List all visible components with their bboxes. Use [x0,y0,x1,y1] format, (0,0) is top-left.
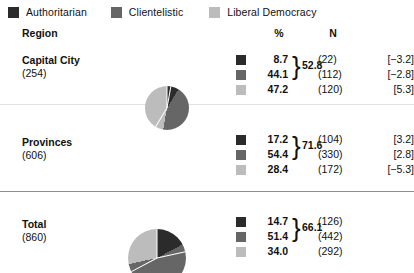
stat-n: (172) [318,163,358,175]
stat-residual: [−2.8] [356,68,414,80]
stat-swatch-authoritarian-icon [236,217,246,227]
row-count: (606) [22,149,72,162]
table-row: Total (860) } 66.1 14.7 (126) 51.4 (442)… [0,198,414,273]
legend-label-clientelistic: Clientelistic [129,6,183,18]
column-headers: Region % N [0,27,414,43]
row-separator-2 [0,191,414,192]
stat-residual: [2.8] [356,148,414,160]
legend-label-authoritarian: Authoritarian [26,6,87,18]
stat-swatch-authoritarian-icon [236,55,246,65]
stat-percent: 14.7 [250,215,288,227]
stat-n: (442) [318,230,358,242]
stat-n: (126) [318,215,358,227]
stat-line: 8.7 (22) [−3.2] [236,52,414,67]
row-count: (254) [22,67,80,80]
stat-residual: [5.3] [356,83,414,95]
stat-percent: 51.4 [250,230,288,242]
stat-n: (120) [318,83,358,95]
stat-line: 34.0 (292) [236,244,414,259]
stat-line: 17.2 (104) [3.2] [236,132,414,147]
stat-residual: [−3.2] [356,53,414,65]
stat-line: 54.4 (330) [2.8] [236,147,414,162]
stat-swatch-liberal-democracy-icon [236,165,246,175]
legend-swatch-authoritarian-icon [8,7,19,18]
stat-percent: 17.2 [250,133,288,145]
stat-n: (292) [318,245,358,257]
stat-residual: [−5.3] [356,163,414,175]
row-count: (860) [22,231,47,244]
table-row: Provinces (606) } 71.6 17.2 (104) [3.2] … [0,112,414,191]
stat-line: 47.2 (120) [5.3] [236,82,414,97]
stat-swatch-clientelistic-icon [236,150,246,160]
stat-percent: 34.0 [250,245,288,257]
stat-swatch-authoritarian-icon [236,135,246,145]
stat-line: 14.7 (126) [236,214,414,229]
row-name: Total [22,218,47,231]
row-label-group: Capital City (254) [22,54,80,80]
row-label-group: Provinces (606) [22,136,72,162]
stat-percent: 8.7 [250,53,288,65]
stat-residual: [3.2] [356,133,414,145]
stat-n: (330) [318,148,358,160]
column-header-n: N [316,27,350,39]
stat-line: 44.1 (112) [−2.8] [236,67,414,82]
stat-percent: 47.2 [250,83,288,95]
stat-n: (22) [318,53,358,65]
stat-swatch-clientelistic-icon [236,232,246,242]
legend: Authoritarian Clientelistic Liberal Demo… [0,4,414,20]
stats-block: } 52.8 8.7 (22) [−3.2] 44.1 (112) [−2.8]… [236,52,414,97]
column-header-percent: % [262,27,296,39]
legend-swatch-clientelistic-icon [111,7,122,18]
stat-line: 51.4 (442) [236,229,414,244]
stat-swatch-clientelistic-icon [236,70,246,80]
legend-item-liberal-democracy: Liberal Democracy [209,6,316,18]
table-row: Capital City (254) } 52.8 8.7 (22) [−3.2… [0,44,414,104]
row-name: Capital City [22,54,80,67]
legend-swatch-liberal-democracy-icon [209,7,220,18]
stat-n: (112) [318,68,358,80]
column-header-region: Region [22,27,58,39]
stat-swatch-liberal-democracy-icon [236,85,246,95]
row-name: Provinces [22,136,72,149]
stat-percent: 28.4 [250,163,288,175]
stats-block: } 66.1 14.7 (126) 51.4 (442) 34.0 (292) [236,214,414,259]
pie-slice-divider [167,86,168,108]
legend-item-clientelistic: Clientelistic [111,6,183,18]
row-separator-1 [0,104,414,105]
stat-line: 28.4 (172) [−5.3] [236,162,414,177]
stat-percent: 54.4 [250,148,288,160]
row-label-group: Total (860) [22,218,47,244]
stat-swatch-liberal-democracy-icon [236,247,246,257]
legend-label-liberal-democracy: Liberal Democracy [227,6,316,18]
stat-n: (104) [318,133,358,145]
stat-percent: 44.1 [250,68,288,80]
legend-item-authoritarian: Authoritarian [8,6,87,18]
stats-block: } 71.6 17.2 (104) [3.2] 54.4 (330) [2.8]… [236,132,414,177]
